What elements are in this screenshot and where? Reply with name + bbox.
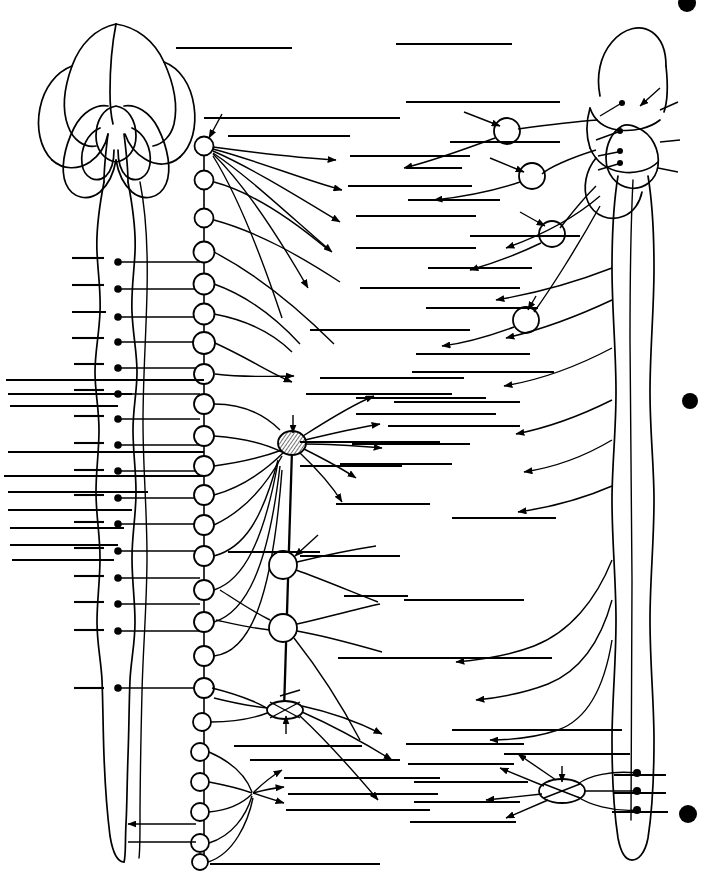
cranial-root-soma	[619, 100, 625, 106]
chain-ganglion	[194, 426, 214, 446]
chain-ganglion	[191, 834, 209, 852]
cranial-root-soma	[617, 160, 623, 166]
chain-ganglion	[194, 242, 215, 263]
superior-mesenteric-ganglion	[269, 551, 297, 579]
chain-ganglion	[194, 274, 215, 295]
anatomy-figure-root	[0, 0, 712, 877]
chain-ganglion	[194, 612, 214, 632]
chain-ganglion	[194, 456, 214, 476]
chain-ganglion	[191, 773, 209, 791]
chain-ganglion	[194, 546, 214, 566]
chain-ganglion	[192, 854, 208, 870]
chain-ganglion	[195, 171, 214, 190]
page-marker-dot-middle	[682, 393, 698, 409]
chain-ganglion	[194, 394, 214, 414]
chain-ganglion	[194, 580, 214, 600]
inferior-mesenteric-ganglion	[269, 614, 297, 642]
cranial-root-soma	[617, 128, 623, 134]
chain-ganglion	[194, 304, 215, 325]
pterygopalatine-ganglion	[519, 163, 545, 189]
chain-ganglion	[194, 515, 214, 535]
page-marker-dot-bottom	[679, 805, 697, 823]
chain-ganglion	[193, 332, 215, 354]
chain-ganglion	[191, 803, 209, 821]
autonomic-nervous-system-diagram	[0, 0, 712, 877]
chain-ganglion	[191, 743, 209, 761]
chain-ganglion	[194, 485, 214, 505]
chain-ganglion	[195, 209, 214, 228]
chain-ganglion	[193, 713, 211, 731]
cranial-root-soma	[617, 148, 623, 154]
chain-ganglion	[195, 137, 214, 156]
ciliary-ganglion	[494, 118, 520, 144]
chain-ganglion	[194, 678, 214, 698]
chain-ganglion	[194, 646, 214, 666]
